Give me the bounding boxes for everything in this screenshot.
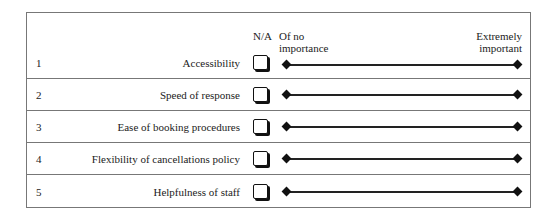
diamond-icon xyxy=(282,154,292,164)
importance-scale-slider[interactable] xyxy=(283,154,521,164)
scale-line xyxy=(287,64,517,66)
na-column-label: N/A xyxy=(253,30,272,42)
row-label: Speed of response xyxy=(160,79,240,110)
importance-scale-slider[interactable] xyxy=(283,122,521,132)
importance-scale-slider[interactable] xyxy=(283,60,521,70)
diamond-icon xyxy=(513,60,523,70)
row-number: 2 xyxy=(36,79,42,110)
scale-line xyxy=(287,94,517,96)
diamond-icon xyxy=(282,122,292,132)
table-row: 2 Speed of response xyxy=(27,78,530,110)
row-number: 3 xyxy=(36,111,42,142)
row-number: 5 xyxy=(36,175,42,208)
scale-line xyxy=(287,126,517,128)
importance-scale-slider[interactable] xyxy=(283,90,521,100)
diamond-icon xyxy=(513,90,523,100)
row-label: Flexibility of cancellations policy xyxy=(92,143,240,174)
diamond-icon xyxy=(282,187,292,197)
table-row: 5 Helpfulness of staff xyxy=(27,174,530,208)
na-checkbox-icon[interactable] xyxy=(253,55,268,70)
table-row: 1 Accessibility xyxy=(27,47,530,79)
row-label: Ease of booking procedures xyxy=(118,111,241,142)
low-anchor-line1: Of no xyxy=(279,30,328,42)
row-number: 1 xyxy=(36,47,42,79)
scale-line xyxy=(287,191,517,193)
row-number: 4 xyxy=(36,143,42,174)
diamond-icon xyxy=(282,60,292,70)
diamond-icon xyxy=(282,90,292,100)
diamond-icon xyxy=(513,187,523,197)
importance-rating-table: N/A Of no importance Extremely important… xyxy=(26,12,531,208)
na-checkbox-icon[interactable] xyxy=(253,151,268,166)
row-label: Helpfulness of staff xyxy=(153,175,240,208)
scale-line xyxy=(287,158,517,160)
table-row: 4 Flexibility of cancellations policy xyxy=(27,142,530,174)
importance-scale-slider[interactable] xyxy=(283,187,521,197)
na-checkbox-icon[interactable] xyxy=(253,184,268,199)
na-checkbox-icon[interactable] xyxy=(253,119,268,134)
diamond-icon xyxy=(513,122,523,132)
diamond-icon xyxy=(513,154,523,164)
table-row: 3 Ease of booking procedures xyxy=(27,110,530,142)
row-label: Accessibility xyxy=(183,47,240,79)
high-anchor-line1: Extremely xyxy=(476,30,522,42)
na-checkbox-icon[interactable] xyxy=(253,87,268,102)
